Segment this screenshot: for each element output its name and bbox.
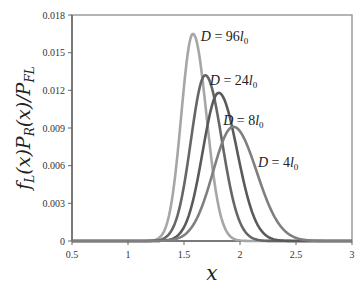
y-tick-label: 0 xyxy=(60,236,65,247)
x-tick-label: 1 xyxy=(126,249,131,260)
y-axis-ticks: 00.0030.0060.0090.0120.0150.018 xyxy=(43,10,73,247)
x-tick-label: 3 xyxy=(350,249,355,260)
y-tick-label: 0.003 xyxy=(43,198,66,209)
x-tick-label: 0.5 xyxy=(66,249,79,260)
annotation-3: D = 4l0 xyxy=(257,155,299,172)
annotation-0: D = 96l0 xyxy=(200,29,249,46)
x-tick-label: 2 xyxy=(238,249,243,260)
y-tick-label: 0.012 xyxy=(43,85,66,96)
x-axis-ticks: 0.511.522.53 xyxy=(66,241,355,260)
x-tick-label: 1.5 xyxy=(178,249,191,260)
annotation-2: D = 8l0 xyxy=(222,113,264,130)
curve-series-0 xyxy=(72,34,352,241)
x-tick-label: 2.5 xyxy=(290,249,303,260)
x-axis-label: x xyxy=(206,261,217,285)
y-tick-label: 0.009 xyxy=(43,123,66,134)
plot-frame xyxy=(72,15,352,241)
annotation-1: D = 24l0 xyxy=(209,73,258,90)
svg-text:fL(x)PR(x)/PFL: fL(x)PR(x)/PFL xyxy=(12,66,37,191)
chart: 00.0030.0060.0090.0120.0150.018 0.511.52… xyxy=(0,0,363,286)
plot-area xyxy=(72,15,352,241)
y-tick-label: 0.018 xyxy=(43,10,66,21)
curve-series-3 xyxy=(72,127,352,241)
y-axis-label: fL(x)PR(x)/PFL xyxy=(12,66,37,191)
y-tick-label: 0.015 xyxy=(43,47,66,58)
curves xyxy=(72,34,352,241)
y-tick-label: 0.006 xyxy=(43,160,66,171)
